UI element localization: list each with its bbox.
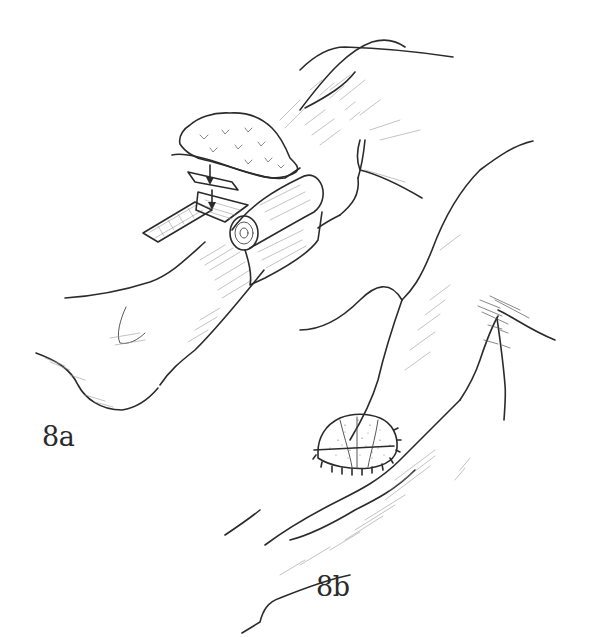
panel-8b-drawing [225, 47, 555, 633]
panel-8a-drawing [36, 40, 405, 410]
panel-label-8a: 8a [42, 423, 74, 450]
medical-illustration: 8a 8b [0, 0, 603, 637]
bolster-dressing [313, 414, 401, 475]
down-arrow-icon [206, 165, 216, 210]
panel-label-8b: 8b [316, 573, 349, 600]
